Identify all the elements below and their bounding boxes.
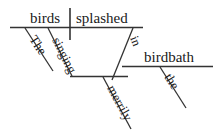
word-subject: birds	[30, 10, 60, 26]
preposition-in-slant-line	[112, 28, 133, 80]
word-verb-adverb: merrily	[104, 82, 136, 123]
word-prep-object: birdbath	[144, 49, 194, 65]
word-subject-adjective: singing	[49, 35, 80, 76]
word-verb: splashed	[76, 10, 128, 26]
diagram-canvas: birds splashed The singing merrily in bi…	[0, 0, 213, 139]
sentence-diagram: birds splashed The singing merrily in bi…	[0, 0, 213, 139]
